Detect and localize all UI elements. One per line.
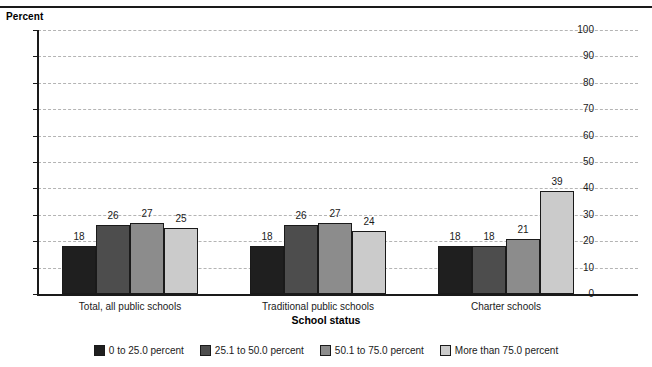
bar <box>250 246 284 294</box>
gridline <box>38 30 638 31</box>
x-axis-line <box>37 294 638 296</box>
category-label: Charter schools <box>406 301 606 312</box>
y-tick-label: 100 <box>568 25 594 35</box>
legend-item[interactable]: 0 to 25.0 percent <box>94 345 184 356</box>
x-axis-title: School status <box>0 314 652 326</box>
y-tick-label: 90 <box>568 51 594 61</box>
gridline <box>38 83 638 84</box>
bar-chart-figure: Percent 0102030405060708090100 182627251… <box>0 0 652 367</box>
bar-value-label: 21 <box>498 225 548 235</box>
bar <box>318 223 352 294</box>
legend-label: 50.1 to 75.0 percent <box>335 345 424 356</box>
legend-swatch-icon <box>94 345 105 356</box>
y-tick-label: 80 <box>568 78 594 88</box>
bar <box>62 246 96 294</box>
bar-value-label: 18 <box>54 232 104 242</box>
legend-label: More than 75.0 percent <box>455 345 558 356</box>
bar-value-label: 39 <box>532 177 582 187</box>
legend-swatch-icon <box>440 345 451 356</box>
bar-value-label: 18 <box>242 232 292 242</box>
bar <box>540 191 574 294</box>
gridline <box>38 109 638 110</box>
y-tick-label: 60 <box>568 131 594 141</box>
category-label: Traditional public schools <box>218 301 418 312</box>
legend-item[interactable]: More than 75.0 percent <box>440 345 558 356</box>
bar-value-label: 24 <box>344 217 394 227</box>
bar <box>164 228 198 294</box>
bar <box>130 223 164 294</box>
legend-item[interactable]: 50.1 to 75.0 percent <box>320 345 424 356</box>
gridline <box>38 162 638 163</box>
legend-item[interactable]: 25.1 to 50.0 percent <box>200 345 304 356</box>
gridline <box>38 56 638 57</box>
y-tick-label: 70 <box>568 104 594 114</box>
legend-swatch-icon <box>200 345 211 356</box>
y-axis-line <box>37 30 39 294</box>
bar-value-label: 25 <box>156 214 206 224</box>
gridline <box>38 188 638 189</box>
plot-area: 0102030405060708090100 18262725182627241… <box>38 30 638 294</box>
chart-legend: 0 to 25.0 percent25.1 to 50.0 percent50.… <box>0 345 652 356</box>
gridline <box>38 136 638 137</box>
y-axis-title: Percent <box>6 11 43 22</box>
bar <box>352 231 386 294</box>
bar <box>472 246 506 294</box>
bar <box>506 239 540 294</box>
category-label: Total, all public schools <box>30 301 230 312</box>
top-divider <box>0 6 652 8</box>
bar <box>438 246 472 294</box>
y-tick-label: 50 <box>568 157 594 167</box>
legend-label: 0 to 25.0 percent <box>109 345 184 356</box>
legend-swatch-icon <box>320 345 331 356</box>
legend-label: 25.1 to 50.0 percent <box>215 345 304 356</box>
